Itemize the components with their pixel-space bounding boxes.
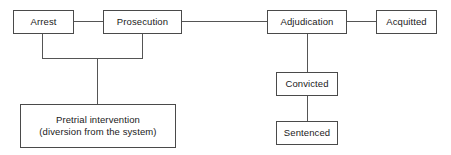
node-prosecution[interactable]: Prosecution	[103, 10, 182, 34]
edge-prosecution-dropline	[142, 33, 143, 59]
node-pretrial-intervention-label: Pretrial intervention (diversion from th…	[35, 114, 160, 138]
node-arrest-label: Arrest	[27, 16, 61, 28]
edge-adjudication-acquitted	[346, 21, 376, 22]
node-adjudication[interactable]: Adjudication	[267, 10, 347, 34]
edge-pretrial-dropline	[97, 58, 98, 105]
node-arrest[interactable]: Arrest	[13, 10, 74, 34]
edge-arrest-dropline	[42, 33, 43, 59]
node-sentenced[interactable]: Sentenced	[276, 121, 338, 145]
edge-adjudication-convicted	[307, 33, 308, 73]
node-prosecution-label: Prosecution	[113, 16, 172, 28]
edge-prosecution-adjudication	[181, 21, 268, 22]
flowchart-diagram: Arrest Prosecution Adjudication Acquitte…	[0, 0, 451, 155]
node-adjudication-label: Adjudication	[277, 16, 338, 28]
node-acquitted-label: Acquitted	[382, 16, 431, 28]
node-acquitted[interactable]: Acquitted	[376, 10, 437, 34]
node-convicted-label: Convicted	[281, 78, 332, 90]
node-pretrial-intervention[interactable]: Pretrial intervention (diversion from th…	[20, 104, 176, 148]
node-sentenced-label: Sentenced	[280, 127, 334, 139]
edge-arrest-prosecution	[73, 21, 104, 22]
node-convicted[interactable]: Convicted	[276, 72, 338, 96]
edge-pretrial-bus	[42, 58, 143, 59]
edge-convicted-sentenced	[307, 95, 308, 122]
